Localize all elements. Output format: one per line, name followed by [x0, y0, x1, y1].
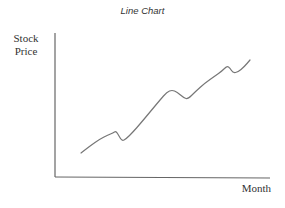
plot-area	[0, 0, 285, 208]
x-axis	[55, 177, 270, 178]
stock-price-line	[81, 60, 250, 153]
